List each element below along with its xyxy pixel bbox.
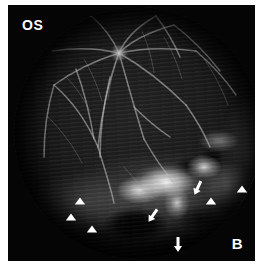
annotation-marker-layer (8, 5, 255, 261)
annotation-arrowhead-icon (75, 198, 85, 205)
eye-laterality-label: OS (22, 17, 43, 33)
photograph-plate: OS B (8, 5, 255, 261)
annotation-arrowhead-icon (87, 226, 97, 233)
annotation-arrowhead-icon (66, 214, 76, 221)
arrow-group (145, 179, 204, 252)
fundus-angiogram-figure: OS B (0, 0, 262, 266)
annotation-arrowhead-icon (206, 198, 216, 205)
arrow-head (174, 246, 182, 252)
annotation-arrow-icon (174, 237, 182, 252)
arrow-head (191, 188, 201, 197)
panel-letter-label: B (232, 235, 243, 252)
annotation-arrowhead-icon (237, 186, 247, 193)
annotation-arrow-icon (145, 207, 160, 224)
annotation-arrow-icon (191, 179, 205, 196)
